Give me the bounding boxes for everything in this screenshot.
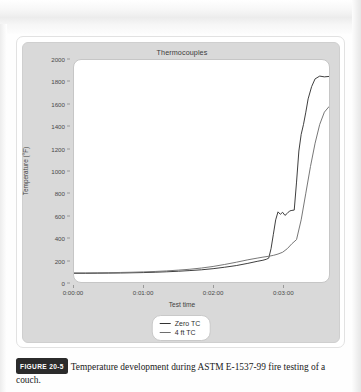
series-paths xyxy=(74,76,329,273)
legend-item[interactable]: 4 ft TC xyxy=(160,328,201,337)
y-tick-mark xyxy=(67,238,70,239)
book-page-sheet: Thermocouples Temperature (°F) 200018001… xyxy=(0,0,361,392)
y-tick-label: 1600 xyxy=(51,100,65,107)
y-tick-mark xyxy=(67,171,70,172)
y-tick-mark xyxy=(67,126,70,127)
series-line-0 xyxy=(74,76,329,273)
x-tick-label: 0:01:00 xyxy=(133,289,154,296)
x-axis-title: Test time xyxy=(23,301,341,308)
chart-title: Thermocouples xyxy=(23,48,341,57)
y-tick-mark xyxy=(67,103,70,104)
y-tick-mark xyxy=(67,215,70,216)
x-tick-mark xyxy=(213,285,214,288)
chart-legend: Zero TC4 ft TC xyxy=(152,315,211,341)
x-axis-ticks: 0:00:000:01:000:02:000:03:00 xyxy=(73,285,330,299)
x-tick-mark xyxy=(143,285,144,288)
x-tick-mark xyxy=(283,285,284,288)
x-tick-mark xyxy=(73,285,74,288)
page-right-edge-shading xyxy=(352,0,361,392)
y-tick-mark xyxy=(67,81,70,82)
page-curl-shading xyxy=(0,0,361,34)
y-tick-mark xyxy=(67,148,70,149)
y-tick-label: 1000 xyxy=(51,168,65,175)
page-left-edge-shading xyxy=(0,24,7,392)
y-tick-mark xyxy=(67,283,70,284)
x-tick-label: 0:02:00 xyxy=(203,289,224,296)
series-line-1 xyxy=(74,107,329,273)
y-tick-label: 800 xyxy=(55,190,65,197)
plot-area xyxy=(73,59,330,283)
plot-svg xyxy=(74,60,329,282)
legend-item[interactable]: Zero TC xyxy=(160,319,201,328)
figure-caption: FIGURE 20-5Temperature development durin… xyxy=(16,358,346,387)
x-tick-label: 0:00:00 xyxy=(63,289,84,296)
figure-panel: Thermocouples Temperature (°F) 200018001… xyxy=(16,36,345,348)
legend-label: Zero TC xyxy=(175,320,201,327)
y-axis-ticks: 2000180016001400120010008006004002000 xyxy=(23,59,71,283)
x-tick-label: 0:03:00 xyxy=(273,289,294,296)
y-tick-label: 1800 xyxy=(51,78,65,85)
legend-label: 4 ft TC xyxy=(175,329,196,336)
chart-card: Thermocouples Temperature (°F) 200018001… xyxy=(22,42,340,343)
y-tick-label: 1400 xyxy=(51,123,65,130)
figure-number-badge: FIGURE 20-5 xyxy=(16,358,68,374)
y-tick-mark xyxy=(67,260,70,261)
y-tick-label: 1200 xyxy=(51,145,65,152)
y-tick-label: 400 xyxy=(55,235,65,242)
y-tick-mark xyxy=(67,59,70,60)
y-tick-label: 2000 xyxy=(51,56,65,63)
y-tick-label: 600 xyxy=(55,212,65,219)
y-tick-mark xyxy=(67,193,70,194)
y-tick-label: 200 xyxy=(55,257,65,264)
legend-line-swatch xyxy=(160,332,171,333)
y-tick-label: 0 xyxy=(62,280,65,287)
legend-line-swatch xyxy=(160,323,171,324)
